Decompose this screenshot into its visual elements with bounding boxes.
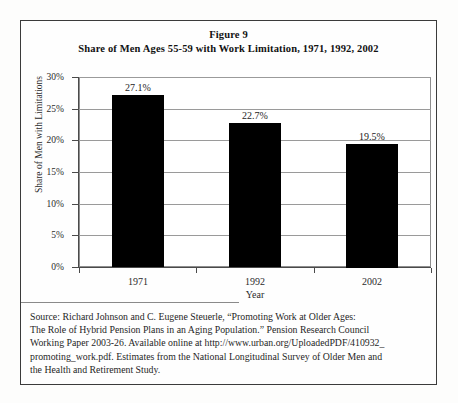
y-axis-line bbox=[78, 77, 79, 268]
bar-chart: 0%5%10%15%20%25%30% 27.1%22.7%19.5% 1971… bbox=[21, 69, 438, 301]
scanned-page: Figure 9 Share of Men Ages 55-59 with Wo… bbox=[0, 0, 458, 403]
source-note-line: promoting_work.pdf. Estimates from the N… bbox=[30, 350, 430, 363]
note-divider bbox=[21, 302, 239, 303]
bar-data-label: 27.1% bbox=[103, 82, 173, 93]
x-axis-tick-label: 1971 bbox=[103, 276, 173, 288]
figure-number: Figure 9 bbox=[21, 28, 436, 42]
y-axis-tick bbox=[72, 235, 78, 236]
y-axis-tick bbox=[72, 77, 78, 78]
figure-title-block: Figure 9 Share of Men Ages 55-59 with Wo… bbox=[21, 28, 436, 56]
y-axis-tick bbox=[72, 267, 78, 268]
figure-box: Figure 9 Share of Men Ages 55-59 with Wo… bbox=[20, 20, 437, 385]
bar bbox=[229, 123, 281, 267]
figure-title: Share of Men Ages 55-59 with Work Limita… bbox=[21, 42, 436, 56]
source-note-line: Working Paper 2003-26. Available online … bbox=[30, 336, 430, 349]
y-axis-tick-label: 5% bbox=[24, 230, 64, 240]
bar-data-label: 22.7% bbox=[220, 110, 290, 121]
x-axis-tick bbox=[314, 268, 315, 273]
x-axis-tick-label: 2002 bbox=[337, 276, 407, 288]
y-axis-title: Share of Men with Limitations bbox=[34, 55, 45, 215]
y-axis-tick bbox=[72, 204, 78, 205]
gridline bbox=[79, 77, 431, 78]
y-axis-tick bbox=[72, 109, 78, 110]
source-note-line: The Role of Hybrid Pension Plans in an A… bbox=[30, 323, 430, 336]
bar-data-label: 19.5% bbox=[337, 131, 407, 142]
source-note-line: Source: Richard Johnson and C. Eugene St… bbox=[30, 310, 430, 323]
y-axis-tick bbox=[72, 172, 78, 173]
x-axis-tick-label: 1992 bbox=[220, 276, 290, 288]
x-axis-tick bbox=[196, 268, 197, 273]
x-axis-tick bbox=[431, 268, 432, 273]
x-axis-tick bbox=[79, 268, 80, 273]
y-axis-tick bbox=[72, 140, 78, 141]
source-note-line: the Health and Retirement Study. bbox=[30, 363, 430, 376]
bar bbox=[112, 95, 164, 267]
source-note: Source: Richard Johnson and C. Eugene St… bbox=[30, 310, 430, 376]
bar bbox=[346, 144, 398, 268]
y-axis-tick-label: 0% bbox=[24, 262, 64, 272]
x-axis-title: Year bbox=[79, 289, 431, 301]
